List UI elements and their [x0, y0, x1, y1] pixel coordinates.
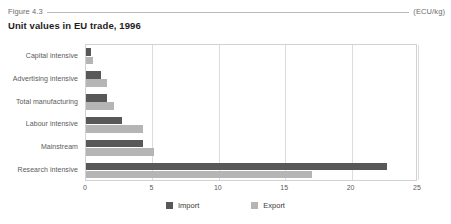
x-axis-tick-label: 20	[347, 184, 355, 191]
x-axis-tick-label: 25	[413, 184, 421, 191]
figure-number: Figure 4.3	[8, 7, 43, 16]
bar-export	[86, 79, 107, 87]
bar-rows	[86, 45, 416, 180]
legend-label: Export	[263, 201, 285, 210]
x-axis-tick-labels: 0510152025	[0, 184, 451, 196]
figure-header: Figure 4.3 (ECU/kg)	[8, 5, 445, 17]
bar-export	[86, 148, 154, 156]
bar-import	[86, 48, 91, 56]
x-axis-tick-label: 5	[149, 184, 153, 191]
bar-export	[86, 171, 312, 179]
plot-area	[85, 44, 417, 181]
legend-swatch-icon	[166, 202, 173, 209]
x-axis-tick-label: 10	[214, 184, 222, 191]
bar-row	[86, 45, 416, 68]
x-axis-tick-label: 15	[280, 184, 288, 191]
bar-export	[86, 102, 114, 110]
bar-row	[86, 159, 416, 182]
bar-import	[86, 117, 122, 125]
y-axis-label: Mainstream	[41, 135, 78, 158]
bar-row	[86, 91, 416, 114]
gridline	[418, 45, 419, 180]
unit-label: (ECU/kg)	[413, 7, 445, 16]
bar-export	[86, 125, 143, 133]
bar-export	[86, 57, 93, 65]
y-axis-label: Research intensive	[18, 158, 78, 181]
legend-item-import[interactable]: Import	[166, 201, 199, 210]
page-title: Unit values in EU trade, 1996	[8, 20, 141, 31]
bar-import	[86, 71, 101, 79]
bar-row	[86, 68, 416, 91]
y-axis-label: Total manufacturing	[16, 90, 78, 113]
bar-chart: Capital intensiveAdvertising intensiveTo…	[0, 38, 451, 224]
legend-label: Import	[178, 201, 199, 210]
y-axis-label: Labour intensive	[26, 113, 78, 136]
x-axis-tick-label: 0	[83, 184, 87, 191]
legend-item-export[interactable]: Export	[251, 201, 285, 210]
bar-import	[86, 163, 387, 171]
bar-import	[86, 140, 143, 148]
bar-row	[86, 114, 416, 137]
header-divider	[47, 12, 410, 13]
y-axis-label: Advertising intensive	[13, 67, 78, 90]
bar-import	[86, 94, 107, 102]
legend-swatch-icon	[251, 202, 258, 209]
bar-row	[86, 136, 416, 159]
chart-legend: ImportExport	[0, 201, 451, 210]
y-axis-category-labels: Capital intensiveAdvertising intensiveTo…	[0, 44, 82, 181]
y-axis-label: Capital intensive	[26, 44, 78, 67]
